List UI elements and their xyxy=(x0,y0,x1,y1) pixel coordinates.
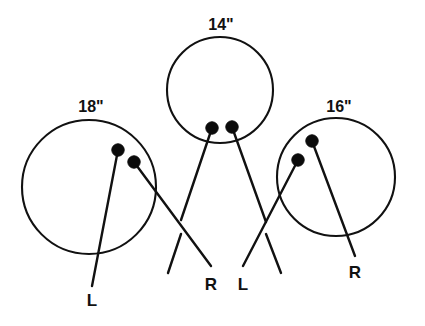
span-line-right-thumb xyxy=(312,141,355,256)
finger-hole-center-left xyxy=(206,122,218,134)
tick-mark-group xyxy=(168,234,281,273)
finger-hole-right-lower xyxy=(292,154,304,166)
ball-group-right: 16" xyxy=(243,98,395,266)
span-line-center-left xyxy=(181,128,212,220)
hand-label-group: L R L R xyxy=(87,263,361,310)
span-line-center-right xyxy=(232,127,266,222)
finger-hole-left-upper xyxy=(112,144,124,156)
bowling-span-diagram: 18" 14" 16" L R L xyxy=(0,0,425,326)
finger-hole-left-lower xyxy=(128,156,140,168)
ball-circle-right xyxy=(277,118,395,236)
ball-circle-center xyxy=(167,37,273,143)
hand-label-center-l: L xyxy=(238,275,248,294)
tick-mark-right xyxy=(266,234,281,273)
finger-hole-right-upper xyxy=(306,135,318,147)
hand-label-center-r: R xyxy=(205,275,217,294)
size-label-right: 16" xyxy=(326,98,351,115)
ball-group-center: 14" xyxy=(167,16,273,222)
tick-mark-left xyxy=(168,234,181,273)
hand-label-right-r: R xyxy=(349,263,361,282)
finger-hole-center-right xyxy=(226,121,238,133)
hand-label-left-l: L xyxy=(87,291,97,310)
ball-circle-left xyxy=(22,120,156,254)
size-label-left: 18" xyxy=(78,98,103,115)
span-line-left-finger xyxy=(134,162,211,266)
diagram-canvas: 18" 14" 16" L R L xyxy=(0,0,425,326)
span-line-left-thumb xyxy=(92,150,118,286)
size-label-center: 14" xyxy=(208,16,233,33)
